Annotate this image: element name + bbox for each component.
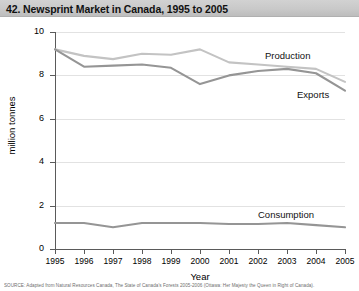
series-line-consumption <box>55 223 345 227</box>
series-label-exports: Exports <box>297 89 329 100</box>
source-note: SOURCE: Adapted from Natural Resources C… <box>4 283 356 288</box>
chart-title-bar: 42. Newsprint Market in Canada, 1995 to … <box>0 0 359 17</box>
x-axis-label: Year <box>120 271 280 282</box>
page-title: 42. Newsprint Market in Canada, 1995 to … <box>6 3 228 15</box>
plot-area: 0246810199519961997199819992000200120022… <box>0 17 359 267</box>
series-label-consumption: Consumption <box>258 209 314 220</box>
chart-figure: 42. Newsprint Market in Canada, 1995 to … <box>0 0 359 291</box>
series-label-production: Production <box>265 50 310 61</box>
